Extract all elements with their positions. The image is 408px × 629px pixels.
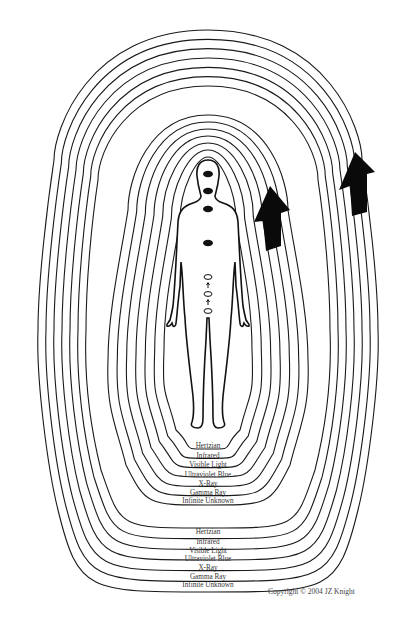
- outer-label: Infinite Unknown: [182, 581, 234, 589]
- outer-label: Visible Light: [189, 547, 227, 555]
- copyright-text: Copyright © 2004 JZ Knight: [268, 587, 356, 596]
- outer-label: Hertzian: [196, 528, 221, 536]
- seal-crown: [203, 171, 213, 177]
- outer-label: X-Ray: [198, 564, 218, 572]
- seal-navel: [204, 292, 212, 297]
- inner-label: Infinite Unknown: [182, 497, 234, 505]
- inner-label: Infrared: [196, 452, 220, 460]
- outer-label: Ultraviolet Blue: [185, 555, 232, 563]
- inner-label: X-Ray: [198, 480, 218, 488]
- inner-label: Gamma Ray: [190, 489, 227, 497]
- outer-label: Gamma Ray: [190, 573, 227, 581]
- seal-solar-plexus: [204, 275, 212, 280]
- seal-heart: [203, 240, 213, 246]
- outer-label: Infrared: [196, 538, 220, 546]
- seal-base: [204, 309, 212, 314]
- inner-label: Visible Light: [189, 461, 227, 469]
- frequency-bands-diagram: Hertzian Infrared Visible Light Ultravio…: [0, 0, 408, 629]
- inner-label: Ultraviolet Blue: [185, 471, 232, 479]
- seal-throat: [203, 206, 213, 212]
- human-figure: [167, 160, 250, 428]
- seal-brow: [203, 188, 213, 194]
- outer-band-labels: Hertzian Infrared Visible Light Ultravio…: [182, 528, 234, 589]
- inner-label: Hertzian: [196, 442, 221, 450]
